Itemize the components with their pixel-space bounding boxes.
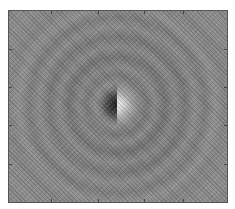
y-tick-left [9,49,12,50]
intensity-map-figure [8,10,228,203]
x-tick-top [51,11,52,14]
x-tick-top [98,11,99,14]
y-tick-right [224,49,227,50]
y-tick-right [224,164,227,165]
y-tick-right [224,125,227,126]
y-tick-left [9,125,12,126]
noise-texture [9,11,227,202]
x-tick-bottom [98,199,99,202]
y-tick-right [224,87,227,88]
x-tick-top [183,11,184,14]
figure-caption [40,204,200,208]
x-tick-bottom [183,199,184,202]
y-tick-left [9,87,12,88]
x-tick-bottom [51,199,52,202]
x-tick-bottom [144,199,145,202]
x-tick-top [144,11,145,14]
y-tick-left [9,164,12,165]
